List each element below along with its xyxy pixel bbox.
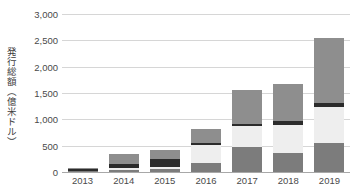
bar-segment-2016-segment-2[interactable]: [191, 145, 221, 162]
bar-segment-2013-segment-1[interactable]: [68, 171, 98, 172]
bar-segment-2015-segment-4[interactable]: [150, 150, 180, 159]
bar-segment-2017-segment-4[interactable]: [232, 90, 262, 124]
bar-stack-2014[interactable]: [109, 154, 139, 172]
bar-segment-2015-segment-1[interactable]: [150, 169, 180, 172]
y-tick-label-2000: 2,000: [4, 61, 58, 72]
x-tick-label-2019: 2019: [307, 175, 351, 186]
x-tick-label-2013: 2013: [61, 175, 105, 186]
y-tick-label-3000: 3,000: [4, 9, 58, 20]
x-tick-label-2015: 2015: [143, 175, 187, 186]
bar-segment-2016-segment-1[interactable]: [191, 163, 221, 172]
bar-stack-2013[interactable]: [68, 168, 98, 172]
bar-stack-2018[interactable]: [273, 84, 303, 172]
bar-segment-2014-segment-4[interactable]: [109, 154, 139, 164]
x-axis-tick-labels: 2013201420152016201720182019: [62, 175, 350, 191]
gridline-0: [62, 172, 350, 173]
y-tick-label-500: 500: [4, 140, 58, 151]
x-tick-label-2014: 2014: [102, 175, 146, 186]
y-axis-tick-labels: 05001,0001,5002,0002,5003,000: [0, 14, 58, 172]
gridline-2500: [62, 40, 350, 41]
x-tick-label-2018: 2018: [266, 175, 310, 186]
bar-segment-2018-segment-2[interactable]: [273, 125, 303, 153]
bar-stack-2017[interactable]: [232, 90, 262, 172]
bar-stack-2019[interactable]: [314, 38, 344, 172]
bar-stack-2016[interactable]: [191, 129, 221, 172]
y-tick-label-1500: 1,500: [4, 88, 58, 99]
bar-segment-2014-segment-1[interactable]: [109, 170, 139, 172]
x-tick-label-2016: 2016: [184, 175, 228, 186]
bar-segment-2017-segment-2[interactable]: [232, 126, 262, 147]
y-tick-label-0: 0: [4, 167, 58, 178]
x-tick-label-2017: 2017: [225, 175, 269, 186]
gridline-1500: [62, 93, 350, 94]
bar-segment-2015-segment-3[interactable]: [150, 159, 180, 167]
gridline-3000: [62, 14, 350, 15]
bar-stack-2015[interactable]: [150, 150, 180, 172]
bar-segment-2019-segment-4[interactable]: [314, 38, 344, 103]
gridline-1000: [62, 119, 350, 120]
bar-segment-2016-segment-4[interactable]: [191, 129, 221, 143]
gridline-2000: [62, 67, 350, 68]
plot-area: [62, 14, 350, 172]
bar-segment-2019-segment-1[interactable]: [314, 143, 344, 172]
stacked-bar-chart: 発行総額（億米ドル） 05001,0001,5002,0002,5003,000…: [0, 0, 358, 193]
bar-segment-2017-segment-1[interactable]: [232, 147, 262, 172]
bar-segment-2018-segment-4[interactable]: [273, 84, 303, 121]
bar-segment-2019-segment-2[interactable]: [314, 107, 344, 143]
bar-segment-2018-segment-1[interactable]: [273, 153, 303, 172]
y-tick-label-1000: 1,000: [4, 114, 58, 125]
y-tick-label-2500: 2,500: [4, 35, 58, 46]
